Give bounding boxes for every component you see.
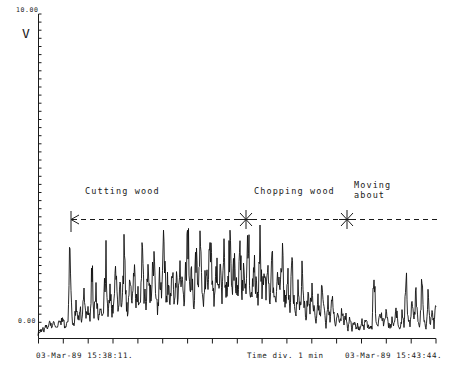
- footer-start-time: 03-Mar-89 15:38:11.: [36, 351, 133, 360]
- annotation-label-chopping-wood: Chopping wood: [254, 186, 335, 196]
- y-axis-min-label: 0.00: [18, 317, 36, 325]
- signal-trace: [38, 225, 436, 335]
- annotation-marker-moving: [339, 210, 355, 229]
- y-axis-max-label: 10.00: [16, 6, 39, 14]
- annotation-label-moving-about-line1: Moving: [354, 180, 391, 190]
- annotation-label-moving-about-line2: about: [354, 190, 391, 200]
- footer-time-division: Time div. 1 min: [247, 351, 324, 360]
- annotation-marker-chopping: [238, 210, 254, 229]
- footer-end-time: 03-Mar-89 15:43:44.: [345, 351, 442, 360]
- y-axis-unit-label: V: [22, 27, 30, 41]
- x-axis-ticks: [39, 339, 437, 344]
- annotation-label-moving-about: Movingabout: [354, 180, 391, 200]
- activity-chart: 10.00 0.00 V Cutting wood Chopping wood …: [0, 0, 454, 380]
- annotation-label-cutting-wood: Cutting wood: [85, 186, 160, 196]
- annotation-start-marker: [71, 211, 79, 232]
- y-axis-ticks: [39, 14, 42, 339]
